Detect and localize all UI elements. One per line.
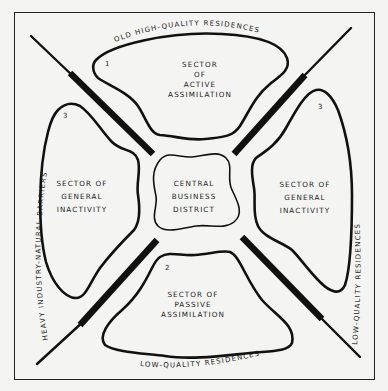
sector-top-number: 1 — [105, 60, 109, 68]
svg-text:INACTIVITY: INACTIVITY — [280, 206, 331, 215]
svg-text:BUSINESS: BUSINESS — [172, 192, 217, 201]
svg-text:ASSIMILATION: ASSIMILATION — [161, 310, 225, 319]
svg-text:GENERAL: GENERAL — [61, 192, 102, 201]
edge-label-left: HEAVY INDUSTRY-NATURAL BARRIERS — [35, 171, 50, 341]
cbd-label: CENTRAL BUSINESS DISTRICT — [172, 179, 217, 214]
svg-text:SECTOR OF: SECTOR OF — [56, 179, 107, 188]
sector-right-label: SECTOR OF GENERAL INACTIVITY — [279, 180, 330, 215]
edge-label-bottom: LOW-QUALITY RESIDENCES — [140, 349, 261, 369]
svg-text:CENTRAL: CENTRAL — [174, 179, 215, 188]
svg-text:GENERAL: GENERAL — [284, 193, 325, 202]
svg-text:INACTIVITY: INACTIVITY — [57, 205, 108, 214]
sector-bottom-label: SECTOR OF PASSIVE ASSIMILATION — [161, 290, 225, 319]
edge-label-right: LOW-QUALITY RESIDENCES — [351, 223, 363, 345]
svg-text:SECTOR OF: SECTOR OF — [167, 290, 218, 299]
svg-text:DISTRICT: DISTRICT — [173, 205, 215, 214]
barrier-lower-left — [37, 240, 157, 364]
sector-left-number: 3 — [63, 112, 67, 120]
sector-bottom-number: 2 — [165, 264, 169, 272]
barrier-upper-right — [234, 28, 351, 154]
svg-text:ACTIVE: ACTIVE — [184, 80, 216, 89]
sector-top-label: SECTOR OF ACTIVE ASSIMILATION — [168, 60, 232, 99]
barrier-upper-left — [31, 36, 153, 154]
svg-text:ASSIMILATION: ASSIMILATION — [168, 90, 232, 99]
sector-left-label: SECTOR OF GENERAL INACTIVITY — [56, 179, 107, 214]
svg-text:OF: OF — [194, 70, 206, 79]
svg-text:SECTOR: SECTOR — [182, 60, 218, 69]
sector-right-number: 3 — [318, 103, 322, 111]
svg-text:SECTOR OF: SECTOR OF — [279, 180, 330, 189]
svg-text:PASSIVE: PASSIVE — [174, 300, 211, 309]
edge-label-top: OLD HIGH-QUALITY RESIDENCES — [113, 19, 261, 44]
sector-diagram: OLD HIGH-QUALITY RESIDENCES LOW-QUALITY … — [0, 0, 388, 391]
